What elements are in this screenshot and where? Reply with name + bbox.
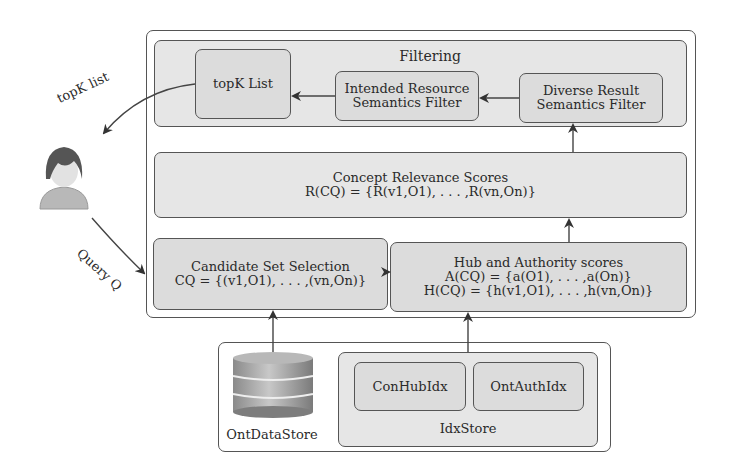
database-icon (230, 350, 316, 420)
hub-authority-box: Hub and Authority scores A(CQ) = {a(O1),… (390, 242, 687, 312)
intended-filter-line2: Semantics Filter (353, 96, 462, 110)
diverse-filter-line1: Diverse Result (543, 84, 639, 98)
topk-list-label: topK List (213, 77, 273, 91)
candidate-set-title: Candidate Set Selection (191, 260, 350, 274)
candidate-set-formula: CQ = {(v1,O1), . . . ,(vn,On)} (175, 274, 366, 288)
ont-data-store-label: OntDataStore (222, 427, 322, 442)
diverse-result-filter-box: Diverse Result Semantics Filter (519, 73, 663, 123)
candidate-set-box: Candidate Set Selection CQ = {(v1,O1), .… (153, 238, 388, 310)
user-avatar-icon (36, 145, 92, 211)
topk-list-box: topK List (195, 49, 291, 119)
idx-store-label: IdxStore (418, 421, 518, 436)
topk-list-arrow-label: topK list (54, 69, 111, 106)
concept-relevance-box: Concept Relevance Scores R(CQ) = {R(v1,O… (154, 152, 687, 218)
ont-auth-idx-box: OntAuthIdx (473, 362, 584, 411)
intended-filter-line1: Intended Resource (345, 82, 470, 96)
filtering-title: Filtering (380, 48, 480, 64)
query-arrow-label: Query Q (74, 245, 125, 293)
hub-authority-title: Hub and Authority scores (454, 256, 623, 270)
authority-formula: A(CQ) = {a(O1), . . . ,a(On)} (445, 270, 632, 284)
intended-resource-filter-box: Intended Resource Semantics Filter (335, 71, 479, 121)
con-hub-idx-box: ConHubIdx (354, 362, 466, 411)
con-hub-idx-label: ConHubIdx (373, 380, 448, 394)
diverse-filter-line2: Semantics Filter (537, 98, 646, 112)
hub-formula: H(CQ) = {h(v1,O1), . . . ,h(vn,On)} (424, 284, 654, 298)
concept-relevance-formula: R(CQ) = {R(v1,O1), . . . ,R(vn,On)} (305, 185, 536, 199)
concept-relevance-title: Concept Relevance Scores (333, 171, 508, 185)
ont-auth-idx-label: OntAuthIdx (490, 380, 566, 394)
